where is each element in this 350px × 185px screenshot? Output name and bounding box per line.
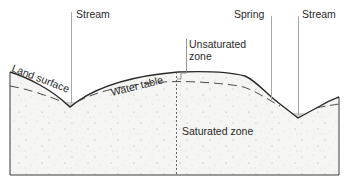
saturated-zone-label: Saturated zone xyxy=(182,125,253,137)
stream-right-label: Stream xyxy=(302,8,336,20)
unsaturated-zone-label-line1: Unsaturated xyxy=(189,38,246,50)
spring-label: Spring xyxy=(234,8,265,20)
stream-left-label: Stream xyxy=(76,8,110,20)
groundwater-diagram: Stream Spring Stream Unsaturated zone La… xyxy=(0,0,350,185)
unsaturated-zone-label-line2: zone xyxy=(189,50,212,62)
